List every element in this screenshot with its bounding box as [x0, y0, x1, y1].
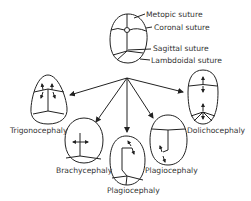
plagiocephaly-right-label: Plagiocephaly	[145, 167, 198, 175]
plagiocephaly-middle-label: Plagiocephaly	[107, 187, 160, 195]
normal-skull	[110, 14, 152, 63]
brachycephaly-skull	[65, 118, 103, 163]
brachycephaly-label: Brachycephaly	[56, 167, 112, 175]
lambdoidal-suture-label: Lambdoidal suture	[151, 57, 222, 65]
plagiocephaly-skull-right	[150, 115, 187, 165]
metopic-suture-label: Metopic suture	[146, 11, 203, 19]
craniosynostosis-diagram: Metopic suture Coronal suture Sagittal s…	[0, 0, 251, 201]
diagram-drawing	[0, 0, 251, 201]
radiating-arrows	[70, 78, 183, 132]
trigonocephaly-label: Trigonocephaly	[10, 127, 67, 135]
dolichocephaly-label: Dolichocephaly	[187, 127, 245, 135]
dolichocephaly-skull	[188, 70, 218, 124]
plagiocephaly-skull-middle	[110, 136, 145, 185]
coronal-suture-label: Coronal suture	[154, 24, 210, 32]
sagittal-suture-label: Sagittal suture	[153, 45, 209, 53]
trigonocephaly-skull	[31, 75, 67, 124]
